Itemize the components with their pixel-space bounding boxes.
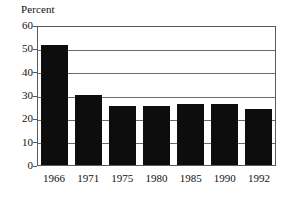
bar bbox=[41, 45, 68, 165]
x-tick-label: 1985 bbox=[174, 172, 208, 185]
y-tick-label: 50 bbox=[22, 43, 33, 54]
x-tick-label: 1980 bbox=[139, 172, 173, 185]
bar bbox=[75, 95, 102, 165]
y-tick-label: 30 bbox=[22, 90, 33, 101]
y-axis-tick-labels: 0102030405060 bbox=[0, 0, 37, 198]
plot-area bbox=[37, 26, 276, 166]
bar bbox=[245, 109, 272, 165]
y-tick-label: 20 bbox=[22, 113, 33, 124]
x-tick-label: 1990 bbox=[208, 172, 242, 185]
bar bbox=[177, 104, 204, 165]
bar bbox=[143, 106, 170, 165]
bar-chart-figure: Percent 0102030405060 196619711975198019… bbox=[0, 0, 291, 198]
y-tick-label: 60 bbox=[22, 20, 33, 31]
x-tick-label: 1966 bbox=[37, 172, 71, 185]
x-tick-label: 1992 bbox=[242, 172, 276, 185]
y-tick-label: 10 bbox=[22, 137, 33, 148]
bar bbox=[211, 104, 238, 165]
x-tick-label: 1971 bbox=[71, 172, 105, 185]
bar bbox=[109, 106, 136, 166]
x-tick-label: 1975 bbox=[105, 172, 139, 185]
y-tick-label: 0 bbox=[28, 160, 34, 171]
y-tick-label: 40 bbox=[22, 67, 33, 78]
x-axis-tick-labels: 1966197119751980198519901992 bbox=[37, 172, 276, 192]
bars-group bbox=[38, 27, 275, 165]
